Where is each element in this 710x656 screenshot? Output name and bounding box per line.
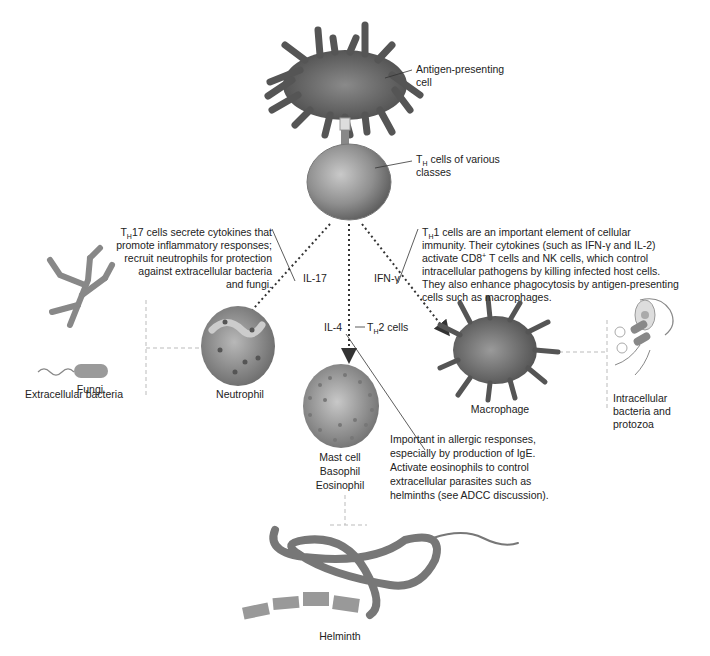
mast-cell-icon bbox=[303, 364, 379, 448]
th1-desc-text: 1 cells are an important element of cell… bbox=[433, 226, 630, 238]
th1-desc-line: immunity. Their cytokines (such as IFN-γ… bbox=[422, 239, 710, 252]
th1-desc-line: activate CD8+ T cells and NK cells, whic… bbox=[422, 252, 710, 265]
th2-desc-line: extracellular parasites such as bbox=[390, 474, 620, 488]
fungi-icon bbox=[50, 248, 112, 325]
th2-description: Important in allergic responses, especia… bbox=[390, 432, 620, 502]
macrophage-label: Macrophage bbox=[455, 403, 545, 416]
il17-label: IL-17 bbox=[303, 272, 327, 285]
mast-cell-label-line: Eosinophil bbox=[305, 478, 375, 492]
ifn-gamma-label: IFN-γ bbox=[374, 272, 400, 285]
th17-desc-line: promote inflammatory responses; bbox=[110, 239, 272, 252]
diagram-artwork bbox=[0, 0, 710, 656]
th17-desc-line: recruit neutrophils for protection bbox=[110, 252, 272, 265]
th1-description: TH1 cells are an important element of ce… bbox=[422, 226, 710, 304]
extracellular-bacteria-label: Extracellular bacteria bbox=[25, 388, 123, 401]
mast-cell-label: Mast cell Basophil Eosinophil bbox=[305, 450, 375, 492]
th-label-line: classes bbox=[416, 166, 500, 179]
extracellular-bacteria-icon bbox=[38, 364, 108, 378]
mast-cell-label-line: Mast cell bbox=[305, 450, 375, 464]
intracellular-pathogens-label: Intracellular bacteria and protozoa bbox=[613, 392, 671, 431]
th1-desc-line: cells such as macrophages. bbox=[422, 291, 710, 304]
neutrophil-label: Neutrophil bbox=[195, 388, 285, 401]
th-cell-icon bbox=[307, 144, 391, 220]
apc-label-line: Antigen-presenting bbox=[416, 63, 504, 76]
apc-label-line: cell bbox=[416, 76, 504, 89]
neutrophil-icon bbox=[201, 306, 275, 386]
th-label-line: TH cells of various bbox=[416, 153, 500, 166]
th2-desc-line: Activate eosinophils to control bbox=[390, 460, 620, 474]
th2-desc-line: helminths (see ADCC discussion). bbox=[390, 488, 620, 502]
th2-label: TH2 cells bbox=[367, 321, 408, 334]
helminth-label: Helminth bbox=[300, 630, 380, 643]
intracellular-label-line: Intracellular bbox=[613, 392, 671, 405]
intracellular-label-line: protozoa bbox=[613, 418, 671, 431]
antigen-presenting-cell-icon bbox=[268, 25, 420, 146]
th1-desc-line: intracellular pathogens by killing infec… bbox=[422, 265, 710, 278]
th2-rest: 2 cells bbox=[378, 321, 408, 333]
helminth-segments-icon bbox=[242, 592, 360, 620]
th17-desc-line: TH17 cells secrete cytokines that bbox=[110, 226, 272, 239]
th1-desc-text: activate CD8 bbox=[422, 252, 482, 264]
il4-label: IL-4 bbox=[324, 321, 342, 334]
apc-label: Antigen-presenting cell bbox=[416, 63, 504, 89]
th2-desc-line: Important in allergic responses, bbox=[390, 432, 620, 446]
th17-desc-text: 17 cells secrete cytokines that bbox=[132, 226, 272, 238]
macrophage-icon bbox=[440, 298, 558, 400]
th1-desc-text: T cells and NK cells, which control bbox=[486, 252, 648, 264]
mast-cell-label-line: Basophil bbox=[305, 464, 375, 478]
th-rest: cells of various bbox=[427, 153, 499, 165]
intracellular-pathogens-icon bbox=[615, 299, 673, 375]
th2-desc-line: especially by production of IgE. bbox=[390, 446, 620, 460]
th1-desc-line: TH1 cells are an important element of ce… bbox=[422, 226, 710, 239]
th1-desc-line: They also enhance phagocytosis by antige… bbox=[422, 278, 710, 291]
th17-description: TH17 cells secrete cytokines that promot… bbox=[110, 226, 272, 291]
th-label: TH cells of various classes bbox=[416, 153, 500, 179]
th17-desc-line: against extracellular bacteria bbox=[110, 265, 272, 278]
intracellular-label-line: bacteria and bbox=[613, 405, 671, 418]
th17-desc-line: and fungi. bbox=[110, 278, 272, 291]
